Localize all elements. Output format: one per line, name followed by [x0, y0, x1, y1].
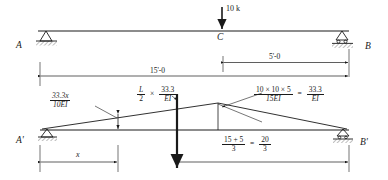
dimension-15ft-label: 15'-0: [150, 67, 165, 75]
centroid-expression: 15 + 5 3 = 20 3: [222, 136, 271, 152]
resultant-expression: L 2 × 33.3 EI: [137, 86, 176, 102]
moment-diagram-outline: [42, 103, 347, 129]
leader-peak-secondary: [218, 104, 262, 122]
peak-expression: 10 × 10 × 5 15EI = 33.3 EI: [254, 86, 324, 102]
support-bprime-roller: [333, 129, 353, 143]
diagram-vector-layer: [0, 0, 388, 180]
centroid-denominator: 3: [222, 145, 245, 153]
leader-left-ordinate: [95, 106, 117, 118]
point-bprime-label: B': [360, 138, 368, 148]
point-load-label: 10 k: [226, 5, 240, 13]
dimension-5ft-label: 5'-0: [269, 53, 280, 61]
point-aprime-label: A': [16, 136, 24, 146]
resultant-denominator: EI: [159, 95, 176, 103]
centroid-result-denominator: 3: [259, 145, 271, 153]
dimension-5ft: [223, 49, 349, 77]
conjugate-beam-group: [38, 93, 353, 172]
resultant-lead-denominator: 2: [137, 95, 145, 103]
dimension-15ft: [40, 62, 348, 86]
real-beam-group: [36, 7, 353, 86]
support-a-pin: [36, 31, 57, 46]
left-ordinate-denominator: 10EI: [50, 101, 70, 109]
centroid-equals-symbol: =: [247, 140, 257, 148]
peak-result-denominator: EI: [307, 95, 324, 103]
point-b-label: B: [365, 42, 371, 52]
support-b-roller: [332, 31, 353, 48]
point-a-label: A: [16, 41, 22, 51]
dimension-x-label: x: [76, 151, 80, 159]
support-aprime-pin: [38, 129, 57, 141]
resultant-times-symbol: ×: [147, 90, 157, 98]
point-c-label: C: [217, 33, 223, 43]
left-ordinate-expression: 33.3x 10EI: [50, 92, 70, 108]
peak-equals-symbol: =: [295, 90, 305, 98]
figure-canvas: 10 k A C B 5'-0 15'-0 A' B' 33.3x 10EI L…: [0, 0, 388, 180]
peak-denominator: 15EI: [254, 95, 293, 103]
